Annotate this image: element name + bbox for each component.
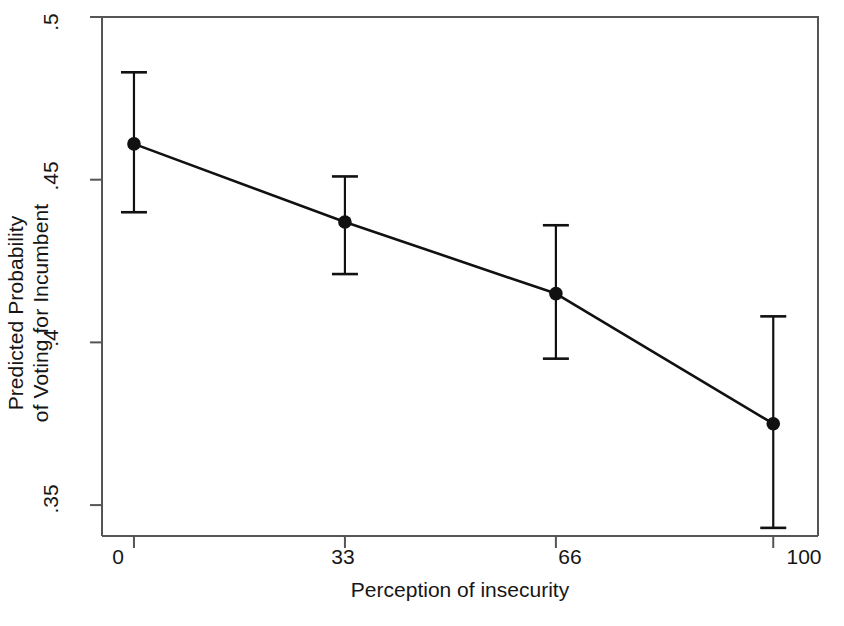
axis-frame	[102, 17, 818, 536]
series-line	[134, 144, 773, 424]
data-point-2	[549, 287, 563, 301]
data-point-group	[127, 137, 780, 430]
error-bar-group	[121, 72, 786, 528]
chart-figure: Predicted Probability of Voting for Incu…	[0, 0, 844, 626]
y-tick-marks	[90, 17, 102, 505]
plot-canvas	[0, 0, 844, 626]
axis-box	[102, 17, 818, 536]
x-tick-marks	[134, 536, 773, 548]
data-point-1	[338, 215, 352, 229]
data-point-0	[127, 137, 141, 151]
data-point-3	[766, 417, 780, 431]
